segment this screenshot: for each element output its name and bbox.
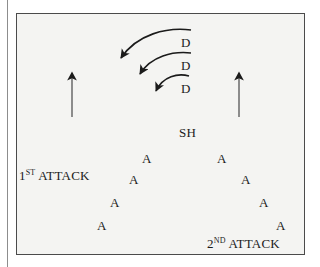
second-attack-suffix: ND xyxy=(214,236,226,245)
second-attack-label: 2ND ATTACK xyxy=(207,237,280,250)
attacker-left-1: A xyxy=(142,152,152,165)
second-attack-ordinal: 2 xyxy=(207,236,214,251)
arrow-layer xyxy=(17,14,306,256)
figure-root: D D D SH A A A A A A A A 1ST ATTACK 2ND … xyxy=(0,0,320,267)
attacker-left-2: A xyxy=(129,173,139,186)
diagram-panel: D D D SH A A A A A A A A 1ST ATTACK 2ND … xyxy=(16,13,305,255)
first-attack-suffix: ST xyxy=(26,168,36,177)
attacker-right-1: A xyxy=(217,152,227,165)
defender-label-1: D xyxy=(181,36,191,49)
attacker-right-2: A xyxy=(241,173,251,186)
attacker-right-3: A xyxy=(259,196,269,209)
first-attack-ordinal: 1 xyxy=(19,168,26,183)
attacker-left-3: A xyxy=(110,196,120,209)
attacker-right-4: A xyxy=(276,219,286,232)
defender-label-3: D xyxy=(181,82,191,95)
defender-label-2: D xyxy=(181,59,191,72)
second-attack-word: ATTACK xyxy=(226,236,280,251)
first-attack-word: ATTACK xyxy=(35,168,89,183)
attacker-left-4: A xyxy=(97,219,107,232)
first-attack-label: 1ST ATTACK xyxy=(19,169,90,182)
page-edge-rule xyxy=(7,0,8,267)
shooter-label: SH xyxy=(179,126,196,139)
